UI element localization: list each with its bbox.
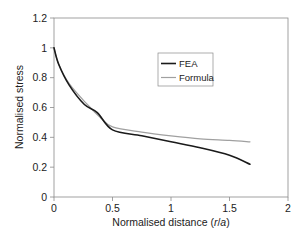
legend-label-fea: FEA [179,58,198,69]
x-tick-label: 1.5 [222,202,237,214]
legend: FEA Formula [158,53,215,86]
y-tick-label: 1.2 [32,12,47,24]
legend-label-formula: Formula [179,72,215,83]
x-axis-ticks: 00.511.52 [51,197,291,214]
x-tick-label: 0.5 [105,202,120,214]
x-tick-label: 0 [51,202,57,214]
y-tick-label: 0 [41,191,47,203]
x-tick-label: 1 [168,202,174,214]
y-axis-ticks: 00.20.40.60.811.2 [32,12,54,203]
y-tick-label: 0.2 [32,161,47,173]
stress-distance-chart: 00.20.40.60.811.2 00.511.52 FEA Formula … [0,0,304,239]
y-tick-label: 0.6 [32,101,47,113]
y-tick-label: 1 [41,42,47,54]
y-tick-label: 0.4 [32,131,47,143]
y-axis-label: Normalised stress [13,65,25,149]
y-tick-label: 0.8 [32,71,47,83]
x-tick-label: 2 [285,202,291,214]
x-axis-label: Normalised distance (r/a) [112,216,229,228]
